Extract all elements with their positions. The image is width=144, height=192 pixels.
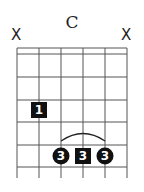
- svg-text:3: 3: [101, 149, 109, 163]
- svg-text:1: 1: [35, 103, 43, 117]
- svg-text:3: 3: [57, 149, 65, 163]
- svg-text:3: 3: [79, 149, 87, 163]
- chord-grid: 1 3 3 3: [0, 0, 144, 192]
